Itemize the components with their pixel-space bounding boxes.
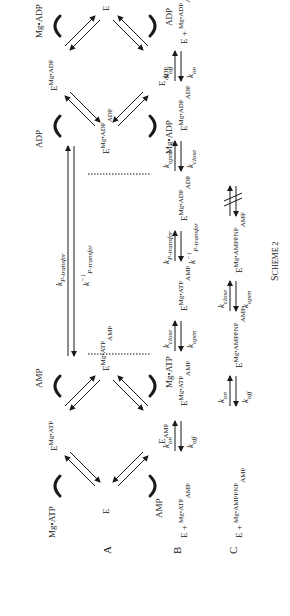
c-species-1: EMg•AMPPNPAMP <box>233 307 247 368</box>
c-species-2: EMg•AMPPNPAMP <box>233 212 247 273</box>
ligand-amp-2: AMP <box>35 368 44 388</box>
ligand-amp: AMP <box>155 498 164 518</box>
b-species-1: EMg•ATPAMP <box>178 361 192 406</box>
b-k-close-2: kclose <box>186 150 198 168</box>
ligand-adp: ADP <box>35 130 44 148</box>
b-k-open: kopen <box>186 330 198 348</box>
b-k-ptransfer: kP-transfer <box>162 231 174 264</box>
ligand-mgatp: Mg•ATP <box>48 506 57 538</box>
k-ptransfer-fwd: kP-transfer <box>55 253 67 286</box>
b-species-3: EMg•ADPADP <box>178 175 192 221</box>
b-species-2: EMg•ATPAMP <box>178 266 192 311</box>
ligand-mgadp: Mg•ADP <box>165 120 174 154</box>
ligand-mgadp-2: Mg•ADP <box>35 4 44 38</box>
b-k-open-2: kopen <box>162 150 174 168</box>
state-e-mgatp: EMg•ATP <box>48 421 59 451</box>
panel-label-b: B <box>172 547 183 554</box>
panel-a-free-enzyme-2: E <box>102 6 111 12</box>
b-species-0: E + Mg•ATPAMP <box>178 483 192 538</box>
c-k-open: kopen <box>241 290 253 308</box>
b-k-close: kclose <box>162 330 174 348</box>
c-k-off: koff <box>241 392 253 403</box>
ligand-adp-2: ADP <box>165 8 174 26</box>
state-e-mgadp: EMg•ADP <box>48 59 59 91</box>
scheme-caption: SCHEME 2 <box>270 241 280 281</box>
panel-label-c: C <box>228 547 239 554</box>
panel-a-free-enzyme: E <box>102 509 111 515</box>
b-k-on: kon <box>162 437 174 448</box>
b-k-on-2: kon <box>186 67 198 78</box>
ternary-e-mgadp-adp: EMg•ADPADP <box>100 108 114 154</box>
b-k-off: koff <box>186 437 198 448</box>
c-species-0: E + Mg•AMPPNPAMP <box>233 468 247 538</box>
b-k-ptransfer-rev: k−1P-transfer <box>186 223 200 264</box>
ternary-e-mgatp-amp: EMg•ATPAMP <box>100 326 114 371</box>
panel-label-a: A <box>102 546 113 554</box>
c-k-close: kclose <box>217 290 229 308</box>
c-k-on: kon <box>217 392 229 403</box>
scheme-figure: A E Mg•ATP AMP EMg•ATP EAMP AMP Mg•ATP E… <box>0 0 290 616</box>
k-ptransfer-rev: k−1P-transfer <box>80 245 94 286</box>
b-species-5: E + Mg•ADPADP <box>178 0 192 44</box>
b-species-4: EMg•ADPADP <box>178 85 192 131</box>
ligand-mgatp-2: Mg•ATP <box>165 356 174 388</box>
b-k-off-2: koff <box>162 67 174 78</box>
